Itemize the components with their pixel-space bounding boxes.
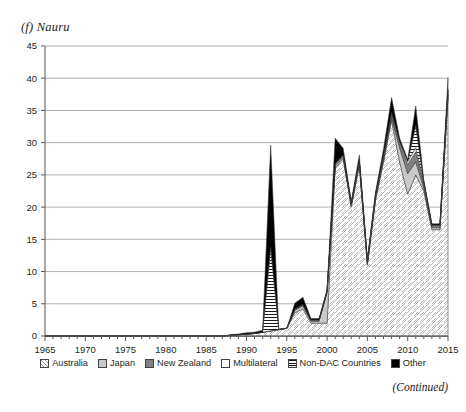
legend-label: Australia [52, 359, 88, 368]
page-title: (f) Nauru [21, 20, 70, 35]
svg-text:1970: 1970 [75, 344, 96, 355]
area-chart-plot: 051015202530354045 196519701975198019851… [0, 0, 466, 355]
legend-item: Other [391, 359, 426, 368]
svg-text:45: 45 [26, 40, 37, 51]
svg-text:2010: 2010 [397, 344, 418, 355]
svg-text:1985: 1985 [196, 344, 217, 355]
svg-text:25: 25 [26, 169, 37, 180]
svg-text:1980: 1980 [155, 344, 176, 355]
svg-text:2000: 2000 [317, 344, 338, 355]
svg-text:30: 30 [26, 137, 37, 148]
chart-figure: (f) Nauru [0, 0, 466, 412]
legend-swatch-multilateral [221, 359, 230, 368]
y-axis-tick-labels: 051015202530354045 [26, 40, 37, 341]
svg-text:5: 5 [32, 298, 37, 309]
legend-item: Multilateral [221, 359, 277, 368]
legend-swatch-new-zealand [145, 359, 154, 368]
legend-item: Non-DAC Countries [288, 359, 381, 368]
continued-note: (Continued) [392, 381, 448, 393]
legend-swatch-non-dac-countries [288, 359, 297, 368]
legend-swatch-australia [40, 359, 49, 368]
legend-label: Multilateral [233, 359, 277, 368]
svg-text:2005: 2005 [357, 344, 378, 355]
svg-text:35: 35 [26, 105, 37, 116]
x-axis-tick-labels: 1965197019751980198519901995200020052010… [34, 344, 458, 355]
svg-text:20: 20 [26, 202, 37, 213]
svg-text:1990: 1990 [236, 344, 257, 355]
legend-swatch-other [391, 359, 400, 368]
legend-swatch-japan [98, 359, 107, 368]
svg-text:2015: 2015 [437, 344, 458, 355]
svg-text:10: 10 [26, 266, 37, 277]
legend-item: New Zealand [145, 359, 211, 368]
legend-label: Japan [110, 359, 135, 368]
svg-text:15: 15 [26, 234, 37, 245]
chart-legend: AustraliaJapanNew ZealandMultilateralNon… [0, 359, 466, 368]
svg-text:1995: 1995 [276, 344, 297, 355]
svg-text:1975: 1975 [115, 344, 136, 355]
legend-item: Australia [40, 359, 88, 368]
legend-label: Non-DAC Countries [300, 359, 381, 368]
svg-text:40: 40 [26, 73, 37, 84]
svg-text:1965: 1965 [34, 344, 55, 355]
legend-label: Other [403, 359, 426, 368]
legend-item: Japan [98, 359, 135, 368]
legend-label: New Zealand [157, 359, 211, 368]
svg-text:0: 0 [32, 330, 37, 341]
